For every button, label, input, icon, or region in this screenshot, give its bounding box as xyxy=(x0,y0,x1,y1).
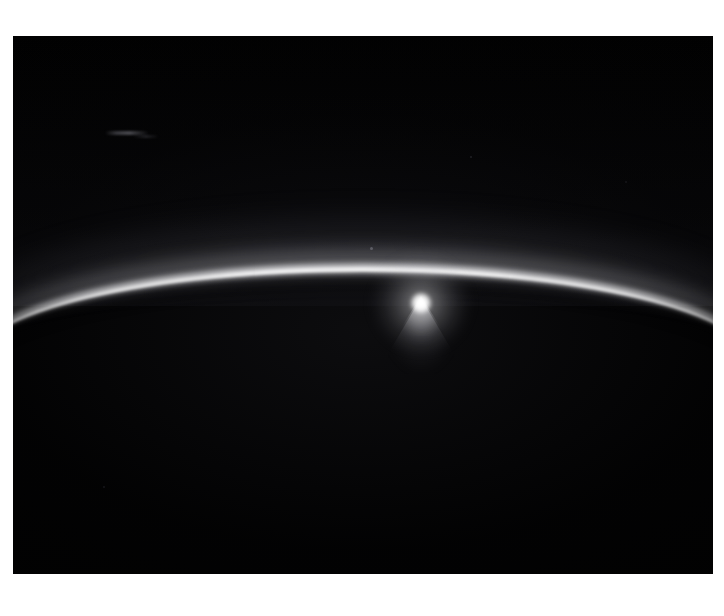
faint-dot-artifact xyxy=(625,181,627,183)
arc-core-band xyxy=(13,264,713,454)
bright-point-source xyxy=(408,290,434,316)
faint-streak-artifact xyxy=(133,135,159,138)
faint-dot-artifact xyxy=(103,486,105,488)
light-plume xyxy=(376,298,466,374)
bright-ring-arc-photograph xyxy=(13,36,713,574)
arc-bright-filament xyxy=(13,268,713,458)
faint-streak-artifact xyxy=(105,131,149,135)
arc-glow xyxy=(13,250,713,440)
sensor-noise-floor xyxy=(13,36,713,574)
bright-point-core xyxy=(411,293,431,313)
faint-dot-artifact xyxy=(370,247,373,250)
page-root xyxy=(0,0,724,616)
arc-halo xyxy=(13,222,713,412)
arc-lower-dark-lane xyxy=(13,282,713,472)
upper-field-haze xyxy=(13,36,713,306)
faint-dot-artifact xyxy=(470,156,472,158)
light-plume-core xyxy=(396,296,446,336)
bright-point-halo xyxy=(374,256,468,350)
